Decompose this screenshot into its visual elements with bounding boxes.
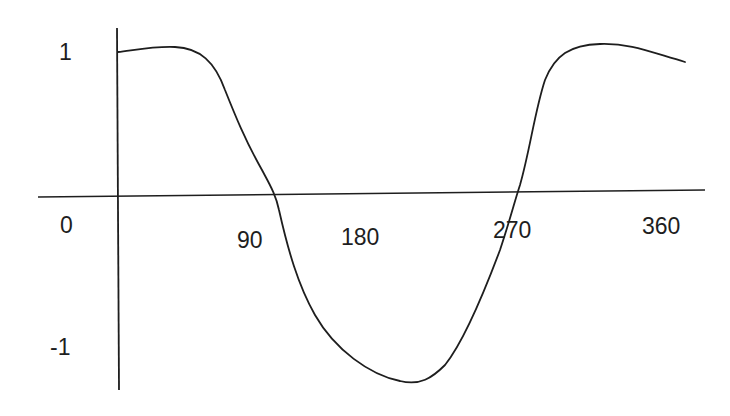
- y-tick-label-0: 0: [60, 214, 73, 237]
- plot-canvas: [0, 0, 730, 416]
- y-axis: [117, 28, 119, 390]
- y-tick-label-1: 1: [59, 41, 72, 64]
- y-tick-label-neg1: -1: [50, 336, 70, 359]
- x-tick-label-180: 180: [341, 226, 379, 249]
- waveform-diagram: 1 0 -1 90 180 270 360: [0, 0, 730, 416]
- x-axis: [38, 190, 705, 197]
- waveform-curve: [118, 44, 685, 383]
- x-tick-label-360: 360: [642, 215, 680, 238]
- x-tick-label-270: 270: [493, 219, 531, 242]
- x-tick-label-90: 90: [237, 229, 263, 252]
